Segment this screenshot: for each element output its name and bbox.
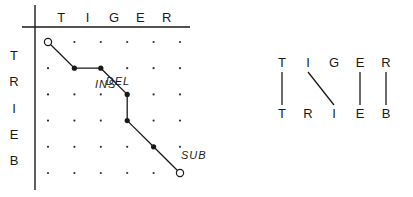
row-label: T [10, 48, 18, 63]
grid-dot [126, 67, 128, 69]
bottom-sequence-letter: R [303, 106, 312, 121]
column-label: I [86, 10, 90, 25]
grid-dot [179, 120, 181, 122]
column-label: R [162, 10, 171, 25]
grid-dot [47, 67, 49, 69]
column-label: G [109, 10, 119, 25]
grid-dot [47, 120, 49, 122]
grid-dot [179, 67, 181, 69]
grid-dot [153, 120, 155, 122]
top-sequence-letter: E [356, 55, 365, 70]
grid-dot [153, 172, 155, 174]
grid-dot [73, 93, 75, 95]
grid-dot [47, 93, 49, 95]
grid-dot [126, 172, 128, 174]
column-label: E [136, 10, 145, 25]
alignment-path [48, 42, 180, 173]
alignment-link [308, 72, 334, 105]
grid-dot [73, 172, 75, 174]
row-label: I [12, 101, 16, 116]
grid-dot [100, 146, 102, 148]
top-sequence-letter: R [381, 55, 390, 70]
bottom-sequence-letter: E [356, 106, 365, 121]
endpoint-node [176, 169, 183, 176]
column-label: T [57, 10, 65, 25]
bottom-sequence-letter: I [332, 106, 336, 121]
grid-dot [73, 41, 75, 43]
grid-dot [126, 146, 128, 148]
row-label: E [10, 127, 19, 142]
endpoint-node [44, 38, 51, 45]
grid-dot [179, 146, 181, 148]
top-sequence-letter: G [329, 55, 339, 70]
bottom-sequence-letter: T [278, 106, 286, 121]
grid-dot [73, 120, 75, 122]
grid-dot [179, 41, 181, 43]
top-sequence-letter: T [278, 55, 286, 70]
row-label: B [10, 153, 19, 168]
operation-label-sub: SUB [181, 149, 207, 161]
top-sequence-letter: I [306, 55, 310, 70]
row-label: R [9, 74, 18, 89]
grid-dot [100, 93, 102, 95]
operation-label-ins: INS [95, 78, 116, 90]
grid-dot [126, 41, 128, 43]
grid-dot [153, 67, 155, 69]
grid-dot [100, 172, 102, 174]
grid-dot [153, 93, 155, 95]
grid-dot [153, 41, 155, 43]
grid-dot [73, 146, 75, 148]
grid-dot [100, 120, 102, 122]
edit-distance-figure: TIGER TRIEB DELINSSUB TIGERTRIEB [0, 0, 413, 197]
grid-dot [47, 172, 49, 174]
grid-dot [47, 146, 49, 148]
grid-dot [100, 41, 102, 43]
grid-dot [179, 93, 181, 95]
bottom-sequence-letter: B [382, 106, 391, 121]
